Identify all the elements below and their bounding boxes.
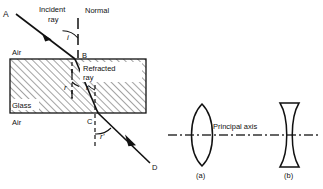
angle-incidence-label: i (67, 33, 69, 42)
refraction-diagram: A Incident ray Normal i B Air Refracted … (3, 5, 158, 172)
refracted-ray-label-line1: Refracted (83, 64, 116, 73)
lens-diagram: Principal axis (a) (b) (168, 103, 320, 180)
incident-ray-label-line2: ray (48, 15, 59, 24)
point-label-d: D (152, 163, 158, 172)
angle-refraction-left-label: r (64, 83, 67, 92)
incident-ray-label-line1: Incident (39, 5, 66, 14)
lens-caption-a: (a) (196, 171, 206, 180)
emergent-ray-line (98, 113, 150, 163)
normal-label: Normal (85, 6, 110, 15)
angle-arc-incidence (63, 31, 79, 38)
point-label-a: A (3, 9, 9, 19)
medium-label-air-top: Air (12, 48, 22, 57)
medium-label-air-bottom: Air (12, 118, 22, 127)
refracted-ray-label-line2: ray (83, 73, 94, 82)
lens-caption-b: (b) (284, 171, 294, 180)
point-label-c: C (87, 117, 93, 126)
figure-canvas: A Incident ray Normal i B Air Refracted … (0, 0, 323, 189)
principal-axis-label: Principal axis (213, 122, 257, 131)
physics-figure: A Incident ray Normal i B Air Refracted … (0, 0, 323, 189)
point-label-b: B (82, 51, 87, 60)
angle-refraction-right-label: r (86, 83, 89, 92)
angle-emergence-label: r' (100, 132, 105, 141)
medium-label-glass: Glass (12, 101, 31, 110)
